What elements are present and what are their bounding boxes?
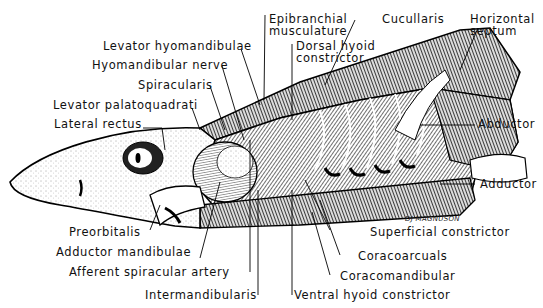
label-adductor: Adductor: [480, 178, 537, 190]
label-intermandibularis: Intermandibularis: [145, 289, 257, 301]
label-coracomandibular: Coracomandibular: [340, 270, 455, 282]
label-preorbitalis: Preorbitalis: [69, 226, 141, 238]
label-dorsal-hyoid-2: constrictor: [296, 52, 364, 64]
artist-signature: DJ MAGNUSON: [405, 215, 460, 223]
snout: [10, 128, 215, 228]
label-hyomandibular-nerve: Hyomandibular nerve: [92, 59, 228, 71]
label-adductor-mandibulae: Adductor mandibulae: [56, 246, 191, 258]
label-ventral-hyoid: Ventral hyoid constrictor: [294, 289, 450, 301]
label-horizontal-septum-2: septum: [470, 25, 517, 37]
label-afferent-spiracular-artery: Afferent spiracular artery: [69, 266, 230, 278]
label-lateral-rectus: Lateral rectus: [54, 118, 142, 130]
label-superficial-constrictor: Superficial constrictor: [370, 226, 510, 238]
shark-illustration: [0, 0, 543, 308]
label-levator-palatoquadrati: Levator palatoquadrati: [53, 99, 198, 111]
label-coracoarcuals: Coracoarcuals: [358, 250, 447, 262]
shark-head-diagram: Epibranchial musculature Cucullaris Hori…: [0, 0, 543, 308]
label-cucullaris: Cucullaris: [382, 13, 444, 25]
label-epibranchial-2: musculature: [269, 25, 347, 37]
label-levator-hyomandibulae: Levator hyomandibulae: [103, 40, 252, 52]
label-abductor: Abductor: [478, 118, 535, 130]
label-spiracularis: Spiracularis: [138, 79, 213, 91]
